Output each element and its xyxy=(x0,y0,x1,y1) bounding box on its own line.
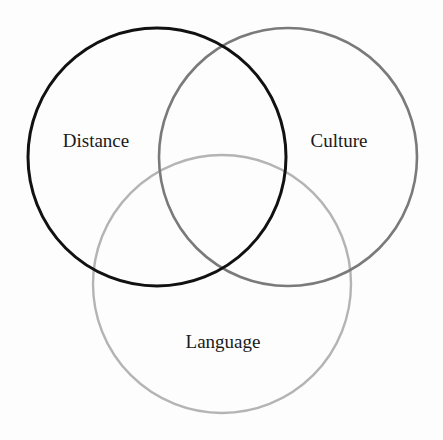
venn-diagram-canvas: Distance Culture Language xyxy=(0,0,443,440)
language-label: Language xyxy=(186,331,261,352)
culture-label: Culture xyxy=(311,130,368,151)
distance-label: Distance xyxy=(63,130,129,151)
venn-diagram: Distance Culture Language xyxy=(0,0,443,440)
